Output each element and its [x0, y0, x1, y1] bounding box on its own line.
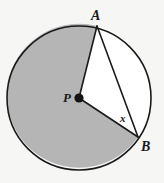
center-point-dot — [74, 93, 83, 102]
geometry-figure: A B P x — [0, 0, 164, 183]
point-label-a: A — [91, 9, 100, 23]
angle-label-x: x — [120, 113, 126, 124]
point-label-b: B — [141, 140, 150, 154]
center-label-p: P — [63, 91, 71, 104]
circle-diagram-svg — [0, 0, 164, 183]
